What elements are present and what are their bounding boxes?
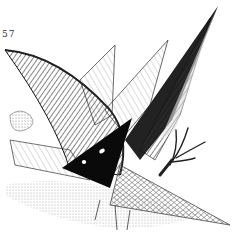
illustration-canvas: 57 bbox=[0, 0, 238, 250]
eye-icon-left bbox=[82, 160, 86, 164]
ink-drawing bbox=[0, 0, 238, 250]
